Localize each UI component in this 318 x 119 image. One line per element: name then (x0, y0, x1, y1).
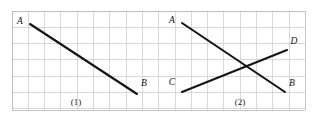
line-segment-cd-panel-2 (182, 50, 287, 92)
point-label-c-panel-2: C (169, 78, 175, 88)
point-label-a-panel-2: A (169, 16, 175, 26)
point-label-b-panel-2: B (289, 79, 295, 89)
point-label-a-panel-1: A (17, 17, 23, 27)
geometry-figure: AB(1)ABCD(2) (0, 0, 318, 119)
line-segment-ab-panel-1 (30, 24, 137, 94)
panel-caption-2: (2) (235, 98, 246, 107)
figure-canvas (0, 0, 318, 119)
point-label-d-panel-2: D (291, 37, 298, 47)
point-label-b-panel-1: B (141, 79, 147, 89)
panel-caption-1: (1) (71, 98, 82, 107)
